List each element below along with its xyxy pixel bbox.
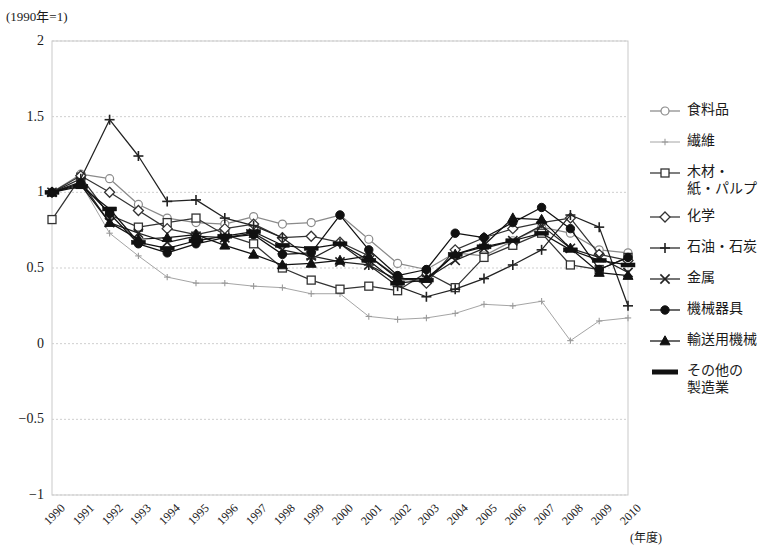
data-point-marker (160, 246, 174, 250)
data-point-marker (48, 216, 56, 224)
data-point-marker (563, 248, 577, 252)
data-point-marker (662, 139, 668, 145)
legend-item-2[interactable]: 木材・ 紙・パルプ (648, 162, 766, 197)
legend-item-1[interactable]: 繊維 (648, 131, 766, 153)
legend-marker-filled-circle-icon (648, 299, 682, 321)
y-axis-tick-label: −1 (6, 487, 44, 503)
y-axis-tick-label: 2 (6, 33, 44, 49)
data-point-marker (278, 250, 286, 258)
legend-marker-small-plus-icon (648, 131, 682, 153)
data-point-marker (362, 258, 376, 262)
legend-marker-plus-icon (648, 237, 682, 259)
data-point-marker (660, 243, 670, 253)
y-axis-unit-label: (1990年=1) (6, 6, 68, 25)
data-point-marker (448, 252, 462, 256)
data-point-marker (624, 253, 632, 261)
legend-label: 食料品 (687, 100, 729, 118)
data-point-marker (365, 282, 373, 290)
legend-line (652, 370, 678, 375)
data-point-marker (391, 281, 405, 285)
chart-container: (1990年=1) 21.510.50−0.5−1 19901991199219… (0, 0, 768, 548)
data-point-marker (336, 211, 344, 219)
legend-item-8[interactable]: その他の 製造業 (648, 361, 766, 396)
legend-label: 木材・ 紙・パルプ (687, 162, 757, 197)
legend-item-3[interactable]: 化学 (648, 206, 766, 228)
data-point-marker (537, 203, 545, 211)
legend-item-0[interactable]: 食料品 (648, 100, 766, 122)
y-axis-tick-label: 0 (6, 336, 44, 352)
data-point-marker (394, 259, 402, 267)
legend-item-6[interactable]: 機械器具 (648, 299, 766, 321)
data-point-marker (74, 184, 88, 188)
data-point-marker (278, 220, 286, 228)
data-point-marker (333, 242, 347, 246)
data-point-marker (106, 175, 114, 183)
data-point-marker (192, 214, 200, 222)
y-axis-tick-label: 1.5 (6, 109, 44, 125)
data-point-marker (275, 243, 289, 247)
data-point-marker (304, 246, 318, 250)
y-axis-tick-label: −0.5 (6, 411, 44, 427)
data-point-marker (189, 239, 203, 243)
legend-label: 金属 (687, 268, 715, 286)
data-point-marker (45, 190, 59, 194)
legend-label: 輸送用機械 (687, 330, 757, 348)
y-axis-tick-label: 0.5 (6, 260, 44, 276)
data-point-marker (660, 336, 670, 345)
legend-label: 繊維 (687, 131, 715, 149)
legend-marker-open-circle-icon (648, 100, 682, 122)
legend-item-4[interactable]: 石油・石炭 (648, 237, 766, 259)
data-point-marker (218, 234, 232, 238)
data-point-marker (365, 235, 373, 243)
legend-label: 機械器具 (687, 299, 743, 317)
data-point-marker (336, 285, 344, 293)
legend-marker-filled-triangle-icon (648, 330, 682, 352)
x-axis-unit-label: (年度) (630, 528, 662, 546)
data-point-marker (307, 276, 315, 284)
chart-legend: 食料品繊維木材・ 紙・パルプ化学石油・石炭金属機械器具輸送用機械その他の 製造業 (648, 100, 766, 405)
data-point-marker (103, 207, 117, 211)
data-point-marker (661, 169, 669, 177)
data-point-marker (566, 224, 574, 232)
legend-label: 石油・石炭 (687, 237, 757, 255)
data-point-marker (566, 261, 574, 269)
data-point-marker (451, 229, 459, 237)
legend-marker-open-square-icon (648, 162, 682, 184)
legend-label: 化学 (687, 206, 715, 224)
data-point-marker (621, 263, 635, 267)
data-point-marker (660, 212, 670, 222)
legend-label: その他の 製造業 (687, 361, 743, 396)
legend-marker-thick-line-icon (648, 361, 682, 383)
data-point-marker (592, 258, 606, 262)
data-point-marker (535, 231, 549, 235)
data-point-marker (247, 230, 261, 234)
data-point-marker (480, 253, 488, 261)
y-axis-tick-label: 1 (6, 184, 44, 200)
data-point-marker (131, 240, 145, 244)
data-point-marker (419, 278, 433, 282)
data-point-marker (477, 245, 491, 249)
data-point-marker (661, 107, 669, 115)
data-point-marker (307, 219, 315, 227)
data-point-marker (506, 239, 520, 243)
legend-item-7[interactable]: 輸送用機械 (648, 330, 766, 352)
legend-marker-cross-icon (648, 268, 682, 290)
legend-marker-open-diamond-icon (648, 206, 682, 228)
data-point-marker (250, 240, 258, 248)
legend-item-5[interactable]: 金属 (648, 268, 766, 290)
data-point-marker (661, 306, 669, 314)
